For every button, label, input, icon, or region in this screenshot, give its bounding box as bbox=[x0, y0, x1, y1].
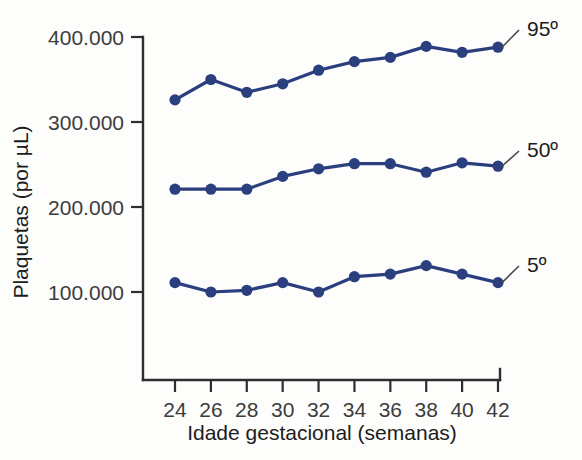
x-axis-tick-label: 24 bbox=[163, 398, 187, 421]
series-leader-line bbox=[502, 151, 519, 166]
y-axis-tick-label: 400.000 bbox=[48, 26, 124, 49]
series-data-point bbox=[385, 269, 396, 280]
series-data-point bbox=[277, 277, 288, 288]
x-axis-tick-label: 32 bbox=[307, 398, 330, 421]
series-leader-line bbox=[502, 266, 519, 283]
y-axis-tick-label: 200.000 bbox=[48, 196, 124, 219]
series-data-point bbox=[385, 52, 396, 63]
series-data-point bbox=[169, 184, 180, 195]
series-data-point bbox=[205, 184, 216, 195]
x-axis-tick-label: 36 bbox=[379, 398, 402, 421]
series-data-point bbox=[313, 163, 324, 174]
x-axis-tick-label: 30 bbox=[271, 398, 294, 421]
series-data-point bbox=[457, 269, 468, 280]
series-data-point bbox=[492, 277, 503, 288]
y-axis-tick-labels: 400.000300.000200.000100.000 bbox=[48, 26, 124, 304]
series-data-point bbox=[277, 78, 288, 89]
x-axis-tick-label: 42 bbox=[486, 398, 509, 421]
series-label-1: 50º bbox=[527, 138, 558, 161]
series-data-point bbox=[349, 56, 360, 67]
x-axis-ticks bbox=[175, 380, 498, 392]
series-data-point bbox=[241, 285, 252, 296]
series-data-point bbox=[457, 157, 468, 168]
series-label-2: 5º bbox=[527, 253, 547, 276]
series-data-point bbox=[421, 167, 432, 178]
series-line bbox=[175, 46, 498, 100]
series-data-point bbox=[313, 286, 324, 297]
series-data-point bbox=[457, 47, 468, 58]
series-data-point bbox=[205, 286, 216, 297]
y-axis-title: Plaquetas (por µL) bbox=[9, 125, 32, 298]
series-data-point bbox=[241, 87, 252, 98]
series-data-point bbox=[169, 277, 180, 288]
series-line bbox=[175, 163, 498, 189]
series-data-point bbox=[492, 42, 503, 53]
series-data-point bbox=[169, 94, 180, 105]
series-data-point bbox=[241, 184, 252, 195]
series-data-point bbox=[421, 260, 432, 271]
series-label-0: 95º bbox=[527, 17, 558, 40]
series-data-point bbox=[349, 271, 360, 282]
x-axis-title: Idade gestacional (semanas) bbox=[187, 421, 457, 444]
y-axis-tick-label: 100.000 bbox=[48, 281, 124, 304]
x-axis-tick-label: 28 bbox=[235, 398, 258, 421]
series-data-point bbox=[421, 41, 432, 52]
platelet-percentile-chart: 400.000300.000200.000100.000 24262830323… bbox=[0, 0, 582, 460]
x-axis-tick-label: 38 bbox=[415, 398, 438, 421]
series-data-point bbox=[277, 171, 288, 182]
series-leader-line bbox=[502, 30, 519, 47]
series-line bbox=[175, 266, 498, 292]
series-data-point bbox=[313, 65, 324, 76]
series-data-point bbox=[349, 158, 360, 169]
series-label-layer: 95º50º5º bbox=[502, 17, 558, 283]
y-axis-tick-label: 300.000 bbox=[48, 111, 124, 134]
series-data-point bbox=[385, 158, 396, 169]
x-axis-tick-labels: 24262830323436384042 bbox=[163, 398, 509, 421]
series-data-point bbox=[205, 74, 216, 85]
y-axis-ticks bbox=[131, 37, 143, 292]
chart-canvas: 400.000300.000200.000100.000 24262830323… bbox=[0, 0, 582, 460]
x-axis-tick-label: 40 bbox=[450, 398, 473, 421]
series-layer bbox=[169, 41, 503, 298]
series-data-point bbox=[492, 161, 503, 172]
x-axis-tick-label: 26 bbox=[199, 398, 222, 421]
x-axis-tick-label: 34 bbox=[343, 398, 367, 421]
